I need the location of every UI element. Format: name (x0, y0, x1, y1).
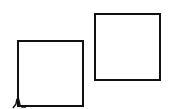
diagram-canvas (0, 0, 169, 109)
square-left (17, 40, 84, 107)
spike-mark-icon (12, 95, 26, 109)
square-right (94, 13, 161, 81)
